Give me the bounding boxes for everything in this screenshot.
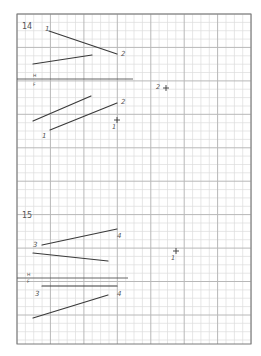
crosshair-label-2: 2: [156, 83, 160, 91]
point-label-1: 1: [45, 25, 49, 33]
crosshair-label-1: 1: [112, 123, 116, 131]
point-label-3: 3: [35, 290, 39, 298]
fold-label-h: H: [27, 272, 30, 277]
crosshair-label-1: 1: [171, 254, 175, 262]
graph-paper-sheet: 14HF12212115HF34341: [0, 0, 261, 356]
fold-label-h: H: [33, 73, 36, 78]
fold-label-f: F: [27, 279, 30, 284]
problem-number: 14: [22, 22, 32, 31]
fold-label-f: F: [33, 82, 36, 87]
point-label-2: 2: [121, 50, 126, 58]
point-label-3: 3: [33, 241, 37, 249]
point-label-4: 4: [117, 290, 121, 298]
point-label-2: 2: [121, 98, 126, 106]
point-label-4: 4: [117, 232, 121, 240]
sheet-background: [0, 0, 261, 356]
problem-number: 15: [22, 211, 32, 220]
point-label-1: 1: [42, 132, 46, 140]
